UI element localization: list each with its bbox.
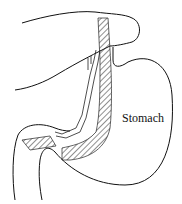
stomach-label: Stomach bbox=[122, 111, 164, 125]
liver-outline bbox=[15, 12, 140, 90]
vessel-branch bbox=[55, 50, 96, 134]
stomach-diagram: Stomach bbox=[0, 0, 182, 204]
vessel-stub bbox=[88, 56, 91, 70]
hatched-nerve bbox=[62, 18, 112, 160]
duodenum-outline bbox=[13, 125, 70, 200]
hatched-branch bbox=[22, 136, 56, 150]
